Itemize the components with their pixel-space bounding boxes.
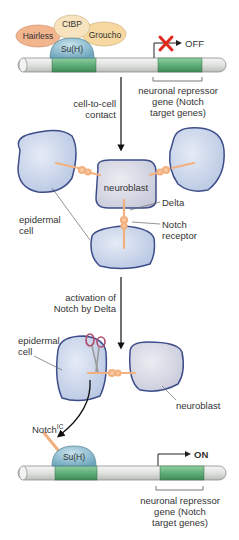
neuroblast-label: neuroblast	[96, 182, 156, 193]
step1-label-1: cell-to-cell	[50, 98, 116, 109]
notch-ic-text: Notch	[32, 424, 57, 435]
epidermal-cell-left	[18, 130, 76, 192]
notch-receptor-label-1: Notch	[162, 219, 187, 230]
on-state-label: ON	[194, 449, 208, 460]
epidermal-cell-lower-label-1: epidermal	[18, 335, 60, 346]
epidermal-cell-right	[170, 128, 225, 191]
gene-bracket-bottom	[156, 486, 203, 490]
activation-cells	[57, 336, 184, 401]
gene-label-top-2: gene (Notch	[128, 96, 228, 107]
ctbp-label: CtBP	[56, 19, 88, 30]
step1-label-2: contact	[50, 109, 116, 120]
notch-ic-label: NotchIC	[32, 421, 63, 435]
hairless-label: Hairless	[18, 31, 58, 42]
gene-label-bottom-3: target genes)	[130, 517, 230, 528]
gene-label-top-3: target genes)	[128, 107, 228, 118]
notch-ic-superscript: IC	[57, 423, 64, 430]
dna-top	[18, 58, 226, 72]
off-state-label: OFF	[185, 38, 204, 49]
gene-label-top-1: neuronal repressor	[128, 85, 228, 96]
cell-cluster	[18, 128, 224, 269]
notch-ic-fragment	[44, 433, 58, 450]
suh-bottom-label: Su(H)	[58, 452, 90, 463]
epidermal-cell-label-2: cell	[19, 225, 33, 236]
step2-label-2: Notch by Delta	[40, 303, 116, 314]
dna-bottom	[18, 466, 226, 480]
neuroblast-cell-lower	[130, 342, 184, 391]
epidermal-cell-label-1: epidermal	[19, 214, 61, 225]
gene-bracket-top	[153, 77, 202, 81]
promoter-on	[158, 451, 191, 466]
gene-label-bottom-2: gene (Notch	[130, 506, 230, 517]
epidermal-cell-lower-label-2: cell	[18, 346, 32, 357]
step2-label-1: activation of	[40, 292, 116, 303]
delta-label: Delta	[162, 197, 184, 208]
promoter-off	[154, 37, 182, 58]
groucho-label: Groucho	[84, 30, 126, 41]
epidermal-cell-bottom	[91, 226, 155, 269]
gene-label-bottom-1: neuronal repressor	[130, 495, 230, 506]
neuroblast-lower-label: neuroblast	[176, 400, 220, 411]
suh-label: Su(H)	[56, 44, 88, 55]
notch-receptor-label-2: receptor	[162, 230, 197, 241]
